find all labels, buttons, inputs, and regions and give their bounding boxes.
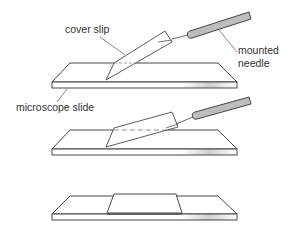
cover-slip-3	[107, 194, 182, 214]
microscope-slide-label: microscope slide	[16, 101, 94, 113]
cover-slip-leader	[100, 37, 125, 55]
mounted-needle-label-line1: mounted	[238, 44, 279, 56]
step-1: cover slip mounted needle microscope sli…	[16, 12, 279, 113]
microscope-slide-1	[52, 63, 237, 88]
step-3	[52, 194, 237, 220]
mounted-needle-label-line2: needle	[238, 57, 270, 69]
mounted-needle-2	[176, 97, 251, 124]
mounted-needle-1	[172, 12, 251, 39]
cover-slip-label: cover slip	[65, 23, 110, 35]
cover-slip-diagram: cover slip mounted needle microscope sli…	[0, 0, 291, 236]
mounted-needle-leader	[219, 30, 237, 52]
